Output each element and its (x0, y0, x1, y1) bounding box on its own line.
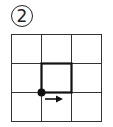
arrow-right-icon (45, 96, 63, 103)
highlight-square (42, 64, 72, 93)
start-dot (38, 89, 46, 97)
grid-diagram (0, 0, 113, 127)
grid (12, 35, 102, 122)
